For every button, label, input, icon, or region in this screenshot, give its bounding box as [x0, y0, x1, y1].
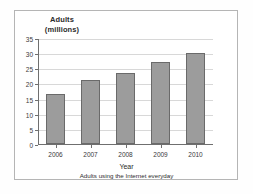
- y-axis-line: [38, 39, 39, 145]
- gridline: [38, 39, 213, 40]
- y-tick-mark: [35, 130, 38, 131]
- y-tick-mark: [35, 115, 38, 116]
- plot-area: 05101520253035 20062007200820092010: [38, 39, 213, 145]
- y-axis-title: Adults (millions): [27, 15, 97, 34]
- y-axis-title-line1: Adults: [27, 15, 97, 25]
- y-tick-label: 0: [29, 142, 33, 149]
- x-tick-mark: [196, 145, 197, 148]
- y-tick-label: 20: [26, 81, 33, 88]
- x-tick-label: 2009: [153, 151, 167, 158]
- y-tick-label: 15: [26, 96, 33, 103]
- x-axis-label: Year: [0, 163, 253, 170]
- y-tick-mark: [35, 100, 38, 101]
- y-tick-mark: [35, 39, 38, 40]
- y-axis-title-line2: (millions): [27, 25, 97, 35]
- x-tick-label: 2008: [118, 151, 132, 158]
- bar: [46, 94, 64, 144]
- bar: [116, 73, 134, 144]
- chart-figure: Adults (millions) 05101520253035 2006200…: [0, 0, 253, 194]
- chart-caption: Adults using the Internet everyday: [0, 172, 253, 179]
- y-tick-label: 10: [26, 111, 33, 118]
- y-tick-label: 5: [29, 126, 33, 133]
- x-tick-mark: [56, 145, 57, 148]
- bar: [81, 80, 99, 144]
- y-tick-mark: [35, 69, 38, 70]
- x-tick-mark: [91, 145, 92, 148]
- x-tick-mark: [161, 145, 162, 148]
- x-tick-label: 2006: [48, 151, 62, 158]
- y-tick-mark: [35, 145, 38, 146]
- y-tick-label: 30: [26, 51, 33, 58]
- x-tick-label: 2010: [188, 151, 202, 158]
- x-tick-mark: [126, 145, 127, 148]
- x-tick-label: 2007: [83, 151, 97, 158]
- bar: [186, 53, 204, 144]
- bar: [151, 62, 169, 144]
- y-tick-label: 25: [26, 66, 33, 73]
- y-tick-label: 35: [26, 36, 33, 43]
- y-tick-mark: [35, 54, 38, 55]
- y-tick-mark: [35, 84, 38, 85]
